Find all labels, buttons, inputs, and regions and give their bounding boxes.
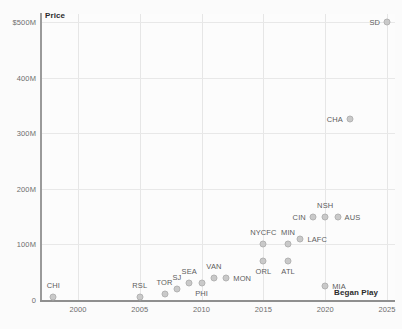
data-point-label: SEA — [182, 267, 197, 276]
x-axis-tick-label: 2000 — [69, 305, 86, 314]
data-point-label: LAFC — [307, 234, 327, 243]
data-point-label: MIA — [332, 282, 346, 291]
data-point-label: SJ — [172, 273, 181, 282]
y-axis-tick-label: $500M — [13, 18, 36, 27]
y-axis-title: Price — [45, 11, 65, 20]
data-point[interactable] — [136, 294, 143, 301]
data-point-label: ATL — [281, 267, 295, 276]
data-point[interactable] — [334, 213, 341, 220]
data-point[interactable] — [210, 274, 217, 281]
gridline-vertical — [140, 14, 141, 300]
data-point-label: NYCFC — [250, 228, 276, 237]
gridline-vertical — [78, 14, 79, 300]
data-point-label: MON — [233, 273, 251, 282]
y-axis-tick-label: 400M — [17, 73, 36, 82]
gridline-vertical — [325, 14, 326, 300]
data-point-label: NSH — [317, 201, 333, 210]
gridline-horizontal — [40, 244, 395, 245]
data-point[interactable] — [309, 213, 316, 220]
data-point-label: AUS — [345, 212, 361, 221]
data-point[interactable] — [285, 241, 292, 248]
data-point-label: MIN — [281, 228, 295, 237]
scatter-chart: 0100M200M300M400M$500M Price Began Play … — [0, 0, 402, 329]
y-axis-tick-label: 0 — [32, 296, 36, 305]
data-point[interactable] — [322, 213, 329, 220]
y-axis-tick-label: 200M — [17, 184, 36, 193]
data-point[interactable] — [173, 285, 180, 292]
y-axis-tick-label: 300M — [17, 129, 36, 138]
y-axis-line — [40, 13, 42, 301]
gridline-vertical — [387, 14, 388, 300]
x-axis-tick-label: 2005 — [131, 305, 148, 314]
x-axis-tick-label: 2010 — [193, 305, 210, 314]
data-point[interactable] — [322, 283, 329, 290]
data-point-label: TOR — [157, 278, 173, 287]
plot-area — [40, 14, 395, 300]
gridline-vertical — [202, 14, 203, 300]
gridline-horizontal — [40, 189, 395, 190]
data-point[interactable] — [285, 258, 292, 265]
x-axis-line — [40, 300, 395, 302]
data-point-label: ORL — [256, 267, 272, 276]
data-point-label: PHI — [195, 289, 208, 298]
x-axis-tick-label: 2025 — [378, 305, 395, 314]
data-point[interactable] — [346, 116, 353, 123]
data-point-label: CIN — [293, 212, 306, 221]
y-axis-tick-label: 100M — [17, 240, 36, 249]
data-point[interactable] — [186, 280, 193, 287]
data-point-label: CHI — [47, 281, 60, 290]
x-axis-tick-label: 2020 — [317, 305, 334, 314]
x-axis-tick-label: 2015 — [255, 305, 272, 314]
data-point-label: SD — [369, 18, 380, 27]
y-axis-tick-labels: 0100M200M300M400M$500M — [0, 0, 36, 329]
data-point[interactable] — [260, 241, 267, 248]
data-point[interactable] — [297, 235, 304, 242]
data-point[interactable] — [223, 274, 230, 281]
data-point-label: RSL — [132, 281, 147, 290]
gridline-horizontal — [40, 22, 395, 23]
data-point[interactable] — [161, 291, 168, 298]
data-point[interactable] — [260, 258, 267, 265]
data-point-label: CHA — [327, 115, 343, 124]
data-point[interactable] — [384, 19, 391, 26]
data-point[interactable] — [198, 280, 205, 287]
data-point[interactable] — [50, 294, 57, 301]
data-point-label: VAN — [206, 262, 221, 271]
gridline-horizontal — [40, 133, 395, 134]
gridline-horizontal — [40, 78, 395, 79]
